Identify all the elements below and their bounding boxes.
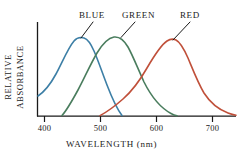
absorbance-spectra-figure: BLUE GREEN RED 400 500 600 700 WAVELENGT… (0, 0, 239, 158)
y-axis-title-line1: RELATIVE (3, 34, 13, 120)
curve-label-green: GREEN (122, 10, 155, 20)
leader-line-red (173, 22, 190, 40)
axis-lines (37, 22, 236, 117)
x-axis-title: WAVELENGTH (nm) (66, 139, 157, 149)
leader-line-green (121, 22, 135, 38)
curve-label-red: RED (180, 10, 200, 20)
curve-label-blue: BLUE (79, 10, 105, 20)
x-tick-label-600: 600 (145, 123, 168, 133)
x-tick-label-700: 700 (201, 123, 224, 133)
annotation-leaders (81, 22, 190, 40)
leader-line-blue (81, 22, 93, 38)
x-axis-ticks (45, 116, 213, 122)
x-axis-title-unit: (nm) (137, 139, 157, 149)
x-axis-title-main: WAVELENGTH (66, 139, 134, 149)
x-tick-label-500: 500 (89, 123, 112, 133)
y-axis-title-line2: ABSORBANCE (15, 34, 25, 120)
curve-blue (38, 37, 122, 115)
x-tick-label-400: 400 (33, 123, 56, 133)
y-axis-title: RELATIVE ABSORBANCE (2, 24, 36, 110)
curve-red (100, 39, 236, 115)
